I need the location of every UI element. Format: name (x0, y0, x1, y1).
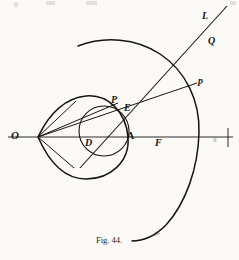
figure-caption: Fig. 44. (96, 236, 122, 245)
line-label-l: L (202, 11, 208, 21)
figure-page: O D A F x P E p L Q Fig. 44. (0, 0, 239, 260)
region-label-q: Q (208, 36, 215, 46)
oblique-line-l (80, 6, 227, 168)
generating-circle (79, 106, 129, 156)
outer-arc (78, 40, 199, 241)
axis-label-x: x (213, 136, 217, 144)
point-label-p-upper: P (111, 95, 117, 105)
origin-label-o: O (11, 130, 19, 141)
point-label-f: F (155, 138, 162, 148)
figure-drawing (0, 0, 239, 260)
point-label-a: A (127, 131, 134, 141)
chord-o-to-p-upper (38, 103, 118, 137)
ray-o-to-p (38, 83, 197, 137)
ray-o-lower (38, 137, 74, 168)
point-label-d: D (85, 138, 92, 148)
point-label-e: E (124, 103, 131, 113)
point-label-p-lower: p (198, 76, 203, 86)
ray-o-upper (38, 101, 76, 137)
